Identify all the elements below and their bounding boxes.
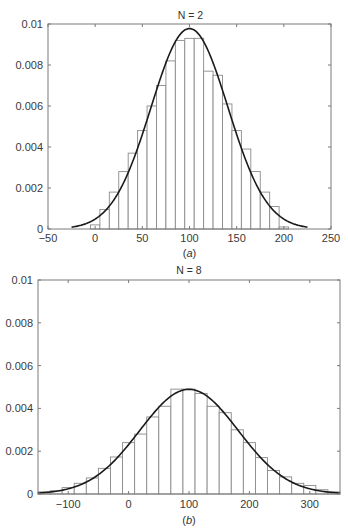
- x-tick-label: 50: [136, 232, 148, 244]
- y-tick-label: 0.006: [5, 360, 33, 372]
- x-tick-label: 300: [301, 498, 319, 510]
- histogram-bars: [38, 389, 340, 494]
- histogram-bar: [109, 192, 118, 229]
- y-tick-label: 0: [27, 488, 33, 500]
- chart-n2: −5005010015020025000.0020.0040.0060.0080…: [15, 9, 340, 259]
- histogram-bar: [171, 389, 183, 494]
- histogram-bar: [219, 413, 231, 494]
- x-tick-label: 150: [227, 232, 245, 244]
- chart-caption: (a): [183, 247, 196, 259]
- chart-title: N = 2: [178, 9, 204, 21]
- histogram-bar: [204, 71, 213, 229]
- histogram-bar: [98, 468, 110, 494]
- histogram-bar: [183, 389, 195, 494]
- histogram-bar: [166, 61, 175, 229]
- histogram-bar: [128, 153, 137, 229]
- histogram-bar: [159, 406, 171, 494]
- chart-title: N = 8: [176, 264, 202, 276]
- y-tick-label: 0.01: [22, 18, 43, 30]
- histogram-bar: [251, 172, 260, 229]
- histogram-bar: [175, 40, 184, 229]
- x-tick-label: 0: [126, 498, 132, 510]
- y-tick-label: 0.004: [5, 402, 33, 414]
- histogram-bar: [156, 86, 165, 230]
- histogram-bar: [207, 406, 219, 494]
- x-tick-label: 250: [322, 232, 340, 244]
- histogram-bar: [135, 434, 147, 494]
- histogram-bar: [260, 192, 269, 229]
- histogram-bar: [119, 172, 128, 229]
- histogram-bar: [185, 38, 194, 229]
- figure: −5005010015020025000.0020.0040.0060.0080…: [0, 0, 348, 531]
- x-tick-label: 200: [275, 232, 293, 244]
- x-tick-label: −100: [56, 498, 81, 510]
- x-tick-label: 100: [180, 498, 198, 510]
- y-tick-label: 0.008: [15, 59, 43, 71]
- histogram-bar: [195, 393, 207, 494]
- y-tick-label: 0.006: [15, 100, 43, 112]
- histogram-bar: [147, 106, 156, 229]
- histogram-bar: [231, 430, 243, 494]
- x-tick-label: 0: [92, 232, 98, 244]
- chart-caption: (b): [182, 514, 195, 526]
- y-tick-label: 0.002: [5, 445, 33, 457]
- histogram-bar: [213, 75, 222, 229]
- histogram-bar: [194, 38, 203, 229]
- x-tick-label: 200: [240, 498, 258, 510]
- y-tick-label: 0.01: [12, 274, 33, 286]
- histogram-bars: [90, 38, 288, 229]
- chart-n8: −100010020030000.0020.0040.0060.0080.01N…: [5, 264, 340, 526]
- histogram-bar: [223, 104, 232, 229]
- histogram-bar: [270, 206, 279, 229]
- y-tick-label: 0: [37, 223, 43, 235]
- y-tick-label: 0.002: [15, 182, 43, 194]
- histogram-bar: [147, 417, 159, 494]
- x-tick-label: 100: [180, 232, 198, 244]
- y-tick-label: 0.008: [5, 317, 33, 329]
- y-tick-label: 0.004: [15, 141, 43, 153]
